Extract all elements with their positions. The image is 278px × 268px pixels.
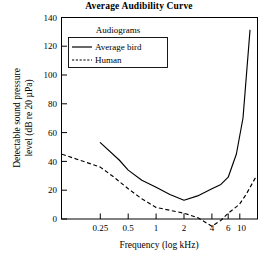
- y-axis-title-line2: level (dB re 20 µPa): [24, 79, 35, 156]
- y-tick-label: 120: [44, 41, 58, 51]
- audibility-curve-plot: 0 20 40 60 80 100 120 140 0.25 0.5 1 2 4: [0, 0, 278, 268]
- legend: Audiograms Average bird Human: [69, 25, 168, 68]
- y-tick-label: 80: [48, 99, 58, 109]
- y-tick-label: 140: [44, 13, 58, 23]
- x-axis-ticks: [100, 214, 240, 220]
- x-tick-label: 6: [226, 223, 231, 233]
- y-axis-ticks: [62, 18, 68, 220]
- y-axis-title-line1: Detectable sound pressure: [12, 68, 22, 168]
- x-axis-tick-labels: 0.25 0.5 1 2 4 6 10: [92, 223, 246, 233]
- y-axis-tick-labels: 0 20 40 60 80 100 120 140: [44, 13, 58, 225]
- x-tick-label: 0.5: [123, 223, 135, 233]
- legend-entry-label: Average bird: [95, 42, 142, 52]
- series-human: [62, 154, 257, 226]
- y-tick-label: 60: [48, 128, 58, 138]
- x-axis-title: Frequency (log kHz): [119, 240, 198, 251]
- y-tick-label: 40: [48, 157, 58, 167]
- x-tick-label: 0.25: [92, 223, 108, 233]
- y-tick-label: 100: [44, 70, 58, 80]
- x-tick-label: 1: [154, 223, 159, 233]
- x-tick-label: 2: [182, 223, 187, 233]
- legend-entry-label: Human: [95, 55, 122, 65]
- y-tick-label: 0: [53, 214, 58, 224]
- legend-title: Audiograms: [96, 25, 141, 35]
- x-tick-label: 10: [237, 223, 247, 233]
- chart-figure: Average Audibility Curve 0 20 40 60 80 1…: [0, 0, 278, 268]
- y-tick-label: 20: [48, 185, 58, 195]
- x-tick-label: 4: [210, 223, 215, 233]
